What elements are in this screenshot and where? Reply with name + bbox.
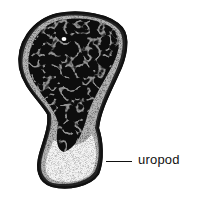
- uropod-label: uropod: [138, 153, 180, 166]
- cell-illustration: uropod: [0, 0, 198, 198]
- nucleolus: [62, 37, 67, 41]
- uropod-leader-line: [106, 161, 132, 162]
- cell-drawing: [0, 0, 198, 198]
